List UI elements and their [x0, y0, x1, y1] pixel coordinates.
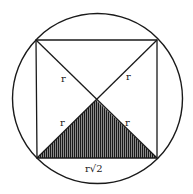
label-bottom-side-r-sqrt2: r√2 [85, 163, 103, 174]
inscribed-square-diagram: r r r r r√2 [0, 0, 193, 194]
label-lower-left-r: r [60, 117, 65, 128]
shaded-triangle [37, 100, 157, 158]
label-upper-left-r: r [61, 73, 66, 84]
label-upper-right-r: r [126, 71, 131, 82]
label-lower-right-r: r [125, 117, 130, 128]
